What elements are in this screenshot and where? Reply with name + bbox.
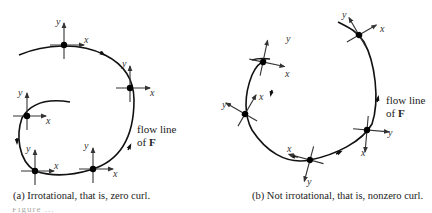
svg-text:x: x: [83, 34, 89, 45]
svg-text:x: x: [284, 68, 290, 79]
svg-text:y: y: [306, 176, 312, 187]
flow-line-a: [19, 46, 134, 175]
flow-direction-arrow: [271, 90, 272, 94]
axis-frame-a-top: y x: [50, 16, 89, 59]
svg-text:of F: of F: [137, 136, 156, 148]
svg-text:x: x: [53, 160, 59, 171]
truncated-figure-caption: Figure ...: [12, 208, 242, 213]
flow-line-b-main: [246, 22, 376, 161]
svg-text:x: x: [45, 115, 51, 126]
svg-text:x: x: [360, 147, 366, 158]
svg-text:y: y: [387, 127, 393, 138]
svg-text:x: x: [286, 143, 292, 154]
caption-panel-b: (b) Not irrotational, that is, nonzero c…: [252, 190, 423, 201]
flow-direction-arrow: [128, 146, 130, 150]
svg-text:y: y: [221, 99, 227, 110]
flow-line-label-b: flow line of F: [386, 94, 426, 119]
flow-line-label-a: flow line of F: [137, 123, 177, 148]
flow-direction-arrow: [377, 98, 378, 102]
svg-text:y: y: [25, 143, 31, 154]
svg-text:of F: of F: [386, 107, 405, 119]
axis-frame-a-left: y x: [13, 87, 51, 130]
axis-frame-a-right: y x: [116, 58, 155, 102]
caption-panel-a: (a) Irrotational, that is, zero curl.: [13, 190, 150, 201]
svg-text:x: x: [149, 87, 155, 98]
svg-text:y: y: [17, 87, 23, 98]
svg-text:x: x: [379, 23, 385, 34]
svg-text:y: y: [55, 16, 61, 27]
svg-text:y: y: [285, 33, 291, 44]
svg-text:x: x: [112, 168, 118, 179]
curl-figure: y x y x y x y x: [0, 0, 432, 213]
svg-text:y: y: [83, 140, 89, 151]
panel-b-not-irrotational: y x x y x y x y y: [219, 8, 426, 187]
svg-text:x: x: [258, 91, 264, 102]
svg-text:flow line: flow line: [137, 123, 177, 135]
axis-frame-b-right: [351, 115, 390, 154]
svg-text:flow line: flow line: [386, 94, 426, 106]
svg-text:y: y: [341, 9, 347, 20]
axis-frame-a-bottom-right: y x: [79, 140, 118, 183]
panel-a-irrotational: y x y x y x y x: [13, 16, 177, 185]
svg-text:y: y: [121, 58, 127, 69]
